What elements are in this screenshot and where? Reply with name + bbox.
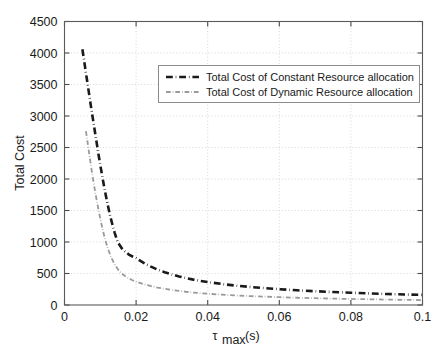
x-tick-label: 0.08 [339,310,363,324]
x-axis-title-subscript: max [222,333,246,347]
y-axis-title: Total Cost [13,135,27,191]
x-axis-title-symbol: τ [213,329,218,343]
y-tick-label: 0 [51,299,58,313]
x-tick-label: 0 [61,310,68,324]
legend-label-dynamic: Total Cost of Dynamic Resource allocatio… [206,86,413,98]
x-axis-title-units: (s) [245,329,260,343]
legend[interactable]: Total Cost of Constant Resource allocati… [159,66,420,103]
y-tick-label: 500 [37,267,58,281]
y-tick-label: 3500 [30,78,58,92]
y-tick-label: 1500 [30,204,58,218]
y-tick-label: 4500 [30,15,58,29]
line-chart: 00.020.040.060.080.1 0500100015002000250… [0,0,442,353]
y-tick-label: 1000 [30,236,58,250]
x-tick-label: 0.06 [267,310,291,324]
x-tick-label: 0.02 [124,310,148,324]
chart-figure: 00.020.040.060.080.1 0500100015002000250… [0,0,442,353]
y-tick-label: 3000 [30,110,58,124]
y-tick-label: 2500 [30,141,58,155]
y-tick-label: 4000 [30,47,58,61]
x-tick-label: 0.1 [414,310,431,324]
y-tick-label: 2000 [30,173,58,187]
x-tick-label: 0.04 [196,310,220,324]
legend-label-constant: Total Cost of Constant Resource allocati… [206,71,414,83]
